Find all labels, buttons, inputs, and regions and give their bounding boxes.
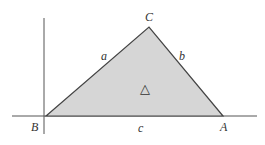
diagram-canvas: C a b △ B c A	[0, 0, 265, 145]
side-label-c: c	[138, 121, 144, 135]
vertex-label-a: A	[219, 120, 228, 134]
side-label-b: b	[179, 49, 185, 63]
side-label-a: a	[101, 49, 107, 63]
triangle	[46, 27, 223, 116]
vertex-label-c: C	[145, 10, 154, 24]
triangle-diagram: C a b △ B c A	[0, 0, 265, 145]
vertex-label-b: B	[31, 120, 39, 134]
area-symbol: △	[140, 81, 150, 96]
